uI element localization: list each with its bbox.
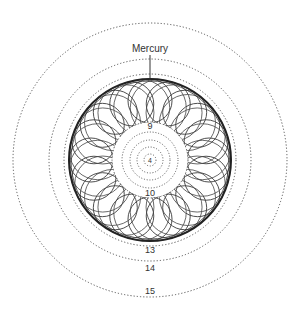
label-15: 15	[145, 286, 155, 296]
mercury-orbit-diagram: Mercury 9 4 10 13 14 15	[0, 0, 294, 315]
label-10: 10	[145, 188, 155, 198]
mercury-label: Mercury	[132, 43, 168, 54]
label-9: 9	[147, 121, 152, 131]
label-14: 14	[145, 263, 155, 273]
label-13: 13	[145, 245, 155, 255]
diagram-canvas: Mercury 9 4 10 13 14 15	[0, 0, 294, 315]
label-4: 4	[148, 157, 152, 164]
